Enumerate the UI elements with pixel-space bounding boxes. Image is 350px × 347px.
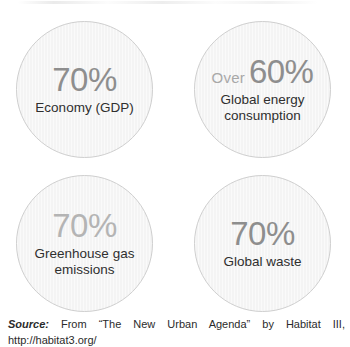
source-caption-line-1: Source: From “The New Urban Agenda” by H… — [8, 317, 345, 333]
stat-circle-global-waste: 70% Global waste — [194, 175, 331, 312]
stat-value-line: 70% — [52, 63, 117, 96]
source-url[interactable]: http://habitat3.org/ — [8, 333, 345, 347]
source-caption: Source: From “The New Urban Agenda” by H… — [8, 317, 345, 347]
stat-value-prefix: Over — [212, 70, 245, 85]
stat-value-line: Over 60% — [212, 55, 314, 88]
stat-circle-greenhouse-gas: 70% Greenhouse gas emissions — [16, 175, 153, 312]
stat-label: Global waste — [213, 254, 311, 270]
stat-value-line: 70% — [230, 217, 295, 250]
stat-circle-energy: Over 60% Global energy consumption — [194, 21, 331, 158]
stat-value-line: 70% — [52, 209, 117, 242]
stat-label: Greenhouse gas emissions — [17, 246, 152, 278]
source-text: From “The New Urban Agenda” by Habitat I… — [61, 318, 345, 330]
stat-label: Economy (GDP) — [25, 100, 143, 116]
stat-value: 70% — [52, 63, 117, 96]
stat-circle-economy: 70% Economy (GDP) — [16, 21, 153, 158]
stat-value: 70% — [230, 217, 295, 250]
statistic-circle-grid: 70% Economy (GDP) Over 60% Global energy… — [0, 0, 350, 313]
stat-value: 60% — [249, 55, 314, 88]
infographic-root: 70% Economy (GDP) Over 60% Global energy… — [0, 0, 350, 347]
stat-label: Global energy consumption — [195, 92, 330, 124]
stat-value: 70% — [52, 209, 117, 242]
source-label: Source: — [8, 318, 49, 330]
